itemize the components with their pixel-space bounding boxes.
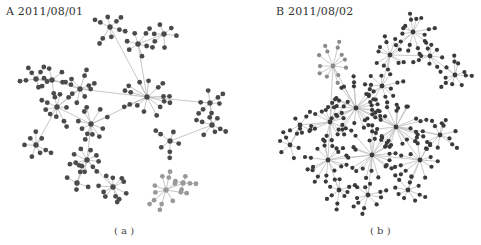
graph-node (60, 80, 65, 85)
graph-node (85, 131, 90, 136)
graph-node (297, 146, 301, 150)
graph-node (65, 175, 70, 180)
graph-node (425, 140, 429, 144)
graph-node (350, 166, 354, 170)
graph-node (378, 114, 382, 118)
graph-node (158, 105, 163, 110)
graph-node (93, 17, 98, 22)
graph-node (123, 88, 128, 93)
graph-node (408, 12, 412, 16)
graph-node (424, 118, 428, 122)
graph-node (393, 173, 397, 177)
panel-a-nodes (18, 15, 229, 213)
graph-node (82, 169, 87, 174)
graph-node (388, 53, 393, 58)
graph-node (330, 138, 334, 142)
graph-node (394, 43, 398, 47)
graph-node (379, 195, 383, 199)
graph-node (196, 111, 201, 116)
graph-node (39, 98, 44, 103)
graph-node (128, 90, 133, 95)
graph-node (354, 169, 358, 173)
graph-node (84, 157, 89, 162)
graph-node (82, 73, 87, 78)
graph-node (122, 104, 127, 109)
graph-node (380, 84, 385, 89)
graph-node (340, 111, 344, 115)
graph-node (311, 165, 315, 169)
graph-node (352, 121, 356, 125)
graph-node (421, 129, 425, 133)
graph-node (201, 132, 206, 137)
graph-node (379, 138, 383, 142)
graph-node (408, 180, 412, 184)
graph-node (300, 131, 304, 135)
graph-node (369, 169, 373, 173)
graph-node (49, 77, 54, 82)
graph-node (288, 143, 293, 148)
graph-node (417, 184, 421, 188)
graph-node (124, 191, 129, 196)
graph-node (318, 64, 322, 68)
graph-node (73, 160, 78, 165)
graph-node (125, 39, 130, 44)
graph-node (166, 175, 171, 180)
graph-node (375, 202, 379, 206)
graph-node (83, 137, 88, 142)
graph-node (429, 155, 433, 159)
graph-node (119, 15, 124, 20)
graph-node (411, 60, 415, 64)
graph-node (96, 183, 101, 188)
graph-node (107, 24, 112, 29)
graph-node (135, 41, 140, 46)
graph-node (171, 130, 176, 135)
graph-node (161, 31, 166, 36)
graph-node (207, 115, 212, 120)
graph-node (174, 33, 179, 38)
graph-node (215, 116, 220, 121)
graph-node (344, 153, 348, 157)
graph-node (344, 163, 348, 167)
graph-node (352, 80, 356, 84)
graph-node (364, 176, 368, 180)
graph-node (39, 136, 44, 141)
graph-node (77, 86, 82, 91)
graph-node (342, 104, 346, 108)
graph-node (33, 129, 38, 134)
graph-node (376, 175, 380, 179)
graph-node (393, 37, 397, 41)
graph-node (409, 152, 413, 156)
graph-node (325, 134, 329, 138)
graph-node (94, 153, 99, 158)
graph-node (323, 139, 327, 143)
graph-node (180, 180, 185, 185)
graph-node (157, 207, 162, 212)
graph-node (360, 212, 364, 216)
graph-node (395, 81, 399, 85)
graph-node (278, 139, 282, 143)
graph-node (97, 134, 102, 139)
graph-node (384, 188, 388, 192)
graph-node (318, 71, 322, 75)
graph-node (370, 153, 375, 158)
graph-node (152, 183, 157, 188)
graph-node (158, 132, 163, 137)
graph-node (386, 67, 390, 71)
graph-node (444, 65, 448, 69)
graph-node (82, 94, 87, 99)
graph-node (399, 163, 403, 167)
graph-node (341, 146, 345, 150)
graph-node (435, 48, 439, 52)
graph-node (344, 126, 348, 130)
graph-node (335, 104, 339, 108)
graph-node (62, 119, 67, 124)
graph-node (378, 45, 382, 49)
graph-node (123, 29, 128, 34)
graph-node (393, 165, 397, 169)
graph-node (328, 120, 333, 125)
graph-node (452, 60, 456, 64)
graph-node (426, 46, 430, 50)
graph-node (328, 185, 332, 189)
graph-node (51, 91, 56, 96)
graph-node (421, 134, 425, 138)
